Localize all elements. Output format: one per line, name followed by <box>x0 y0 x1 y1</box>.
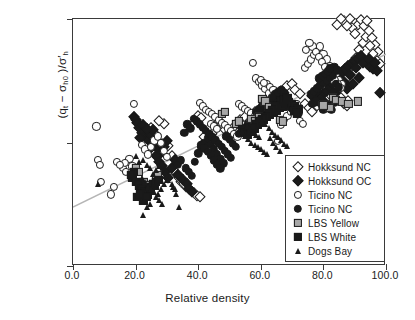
data-point <box>256 134 262 140</box>
data-point <box>140 157 146 163</box>
circle-open-icon <box>291 189 305 201</box>
data-point <box>277 148 283 154</box>
data-point <box>162 169 168 175</box>
legend-item-2[interactable]: Ticino NC <box>291 188 384 202</box>
legend-label: Hokksund NC <box>308 162 371 173</box>
x-tick-label: 0.0 <box>65 269 80 281</box>
legend-item-6[interactable]: Dogs Bay <box>291 244 384 258</box>
diamond-open-icon <box>291 161 305 173</box>
data-point <box>147 201 153 207</box>
legend-item-0[interactable]: Hokksund NC <box>291 160 384 174</box>
legend-item-4[interactable]: LBS Yellow <box>291 216 384 230</box>
x-tick-label: 20.0 <box>124 269 145 281</box>
x-tick-label: 60.0 <box>249 269 270 281</box>
legend-label: LBS White <box>308 232 356 243</box>
legend-label: Ticino NC <box>308 190 352 201</box>
chart-legend: Hokksund NCHokksund OCTicino NCTicino NC… <box>285 155 385 262</box>
square-gray-icon <box>291 217 305 229</box>
data-point <box>172 186 178 192</box>
circle-fill-icon <box>291 203 305 215</box>
square-fill-icon <box>291 231 305 243</box>
data-point <box>140 212 146 218</box>
data-point <box>173 191 179 197</box>
x-tick-label: 100.0 <box>372 269 399 281</box>
y-tick <box>67 19 73 20</box>
data-point <box>284 143 290 149</box>
data-point <box>95 181 101 187</box>
data-point <box>264 151 270 157</box>
y-tick <box>67 143 73 144</box>
legend-item-3[interactable]: Ticino NC <box>291 202 384 216</box>
legend-label: LBS Yellow <box>308 218 359 229</box>
legend-label: Hokksund OC <box>308 176 371 187</box>
legend-item-1[interactable]: Hokksund OC <box>291 174 384 188</box>
x-tick-label: 80.0 <box>312 269 333 281</box>
legend-item-5[interactable]: LBS White <box>291 230 384 244</box>
x-tick-label: 40.0 <box>187 269 208 281</box>
data-point <box>159 160 165 166</box>
x-axis-title: Relative density <box>0 292 415 304</box>
data-point <box>255 116 261 122</box>
y-axis-title: (qt − σh0 )/σ′h <box>56 20 70 150</box>
chart-figure: 10.0100.01000.0 (qt − σh0 )/σ′h 0.020.04… <box>0 0 415 320</box>
data-point <box>159 201 165 207</box>
legend-label: Ticino NC <box>308 204 352 215</box>
data-point <box>176 204 182 210</box>
triangle-fill-icon <box>291 245 305 257</box>
legend-label: Dogs Bay <box>308 246 352 257</box>
diamond-fill-icon <box>291 175 305 187</box>
